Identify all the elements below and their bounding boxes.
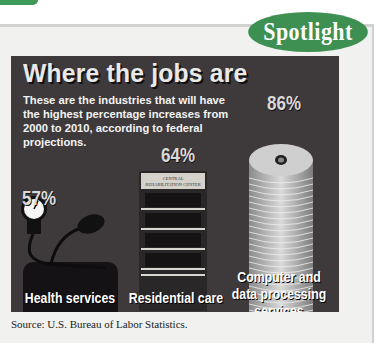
category-label-2-text: Computer and data processing services: [232, 268, 326, 312]
value-label-0: 57%: [22, 187, 56, 210]
value-label-2: 86%: [267, 92, 301, 115]
category-label-2: Computer and data processing services: [226, 268, 333, 312]
building-sign-line-1: CENTRAL: [163, 176, 184, 181]
spotlight-badge: Spotlight: [248, 12, 368, 52]
infographic-panel: Where the jobs are These are the industr…: [11, 56, 339, 312]
source-note: Source: U.S. Bureau of Labor Statistics.: [11, 318, 188, 330]
building-sign-line-2: REHABILITATION CENTER: [145, 182, 201, 187]
category-label-0: Health services: [17, 289, 124, 306]
chart-subtitle: These are the industries that will have …: [23, 93, 238, 149]
section-tab: [0, 0, 38, 5]
category-label-1: Residential care: [123, 289, 230, 306]
chart-title: Where the jobs are: [23, 58, 247, 89]
value-label-1: 64%: [161, 144, 195, 167]
